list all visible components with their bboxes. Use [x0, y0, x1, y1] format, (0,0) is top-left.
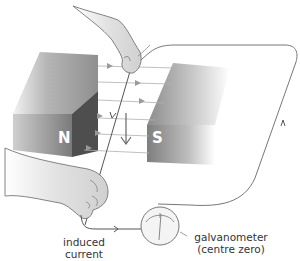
- galvanometer-label: galvanometer (centre zero): [185, 231, 277, 255]
- bottom-hand: [5, 148, 108, 219]
- south-magnet: [147, 63, 230, 165]
- induction-diagram: [0, 0, 300, 261]
- induced-current-label: induced current: [60, 236, 108, 260]
- current-arrow-on-wire: [110, 112, 116, 118]
- north-magnet: [13, 52, 98, 157]
- north-pole-label: N: [58, 129, 71, 147]
- current-arrow-right: [281, 120, 285, 126]
- lower-wire: [81, 215, 142, 229]
- south-pole-label: S: [152, 129, 163, 147]
- motion-down-arrow: [121, 113, 131, 144]
- galvanometer: [141, 207, 187, 245]
